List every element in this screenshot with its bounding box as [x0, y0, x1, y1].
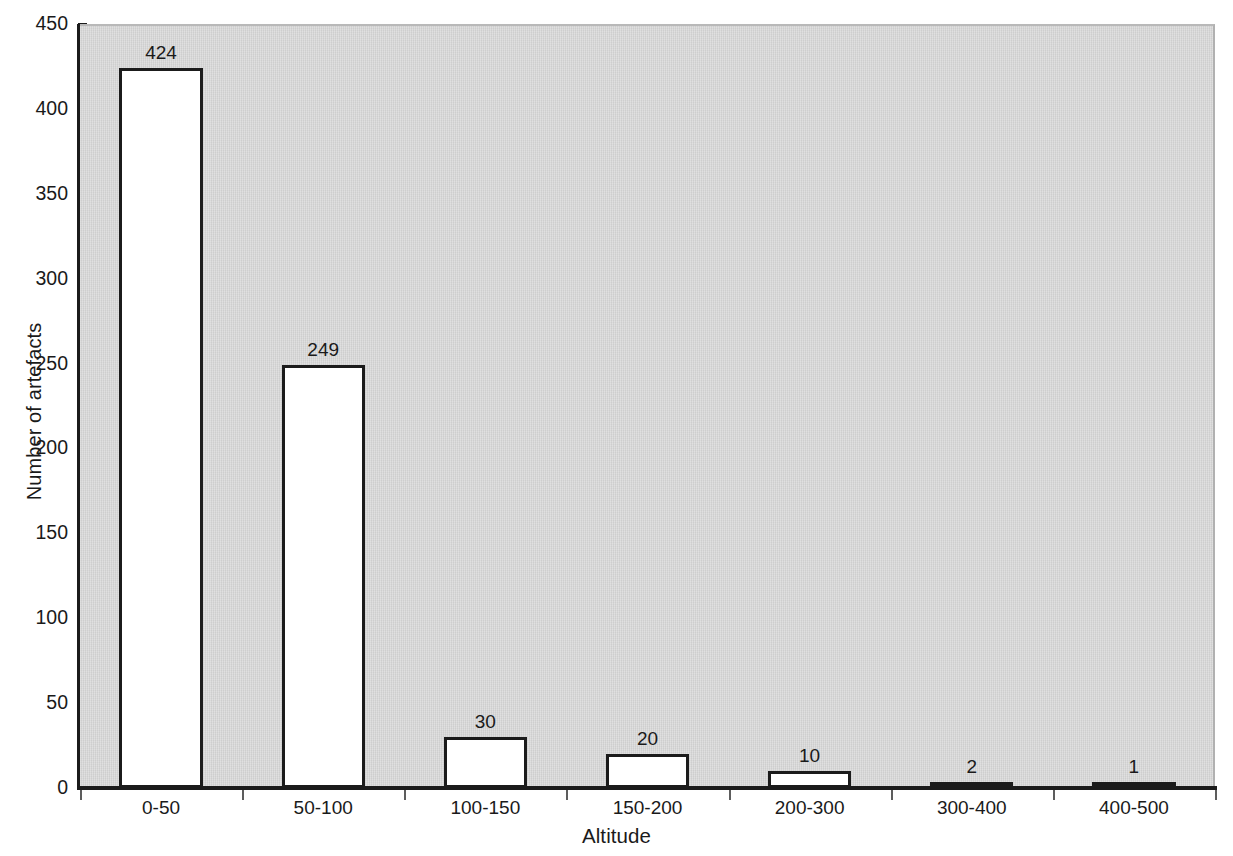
x-axis-line: [77, 786, 1217, 790]
x-axis-category-label: 200-300: [775, 797, 845, 819]
x-axis-tick: [404, 790, 406, 800]
x-axis-category-label: 150-200: [613, 797, 683, 819]
y-axis-tick-label: 100: [14, 608, 68, 628]
bar-slot: 2: [930, 26, 1013, 788]
bar-slot: 1: [1092, 26, 1175, 788]
y-axis-tick-label: 300: [14, 269, 68, 289]
x-axis-tick: [80, 790, 82, 800]
bar: [282, 365, 365, 788]
x-axis-category-label: 0-50: [142, 797, 180, 819]
y-axis-tick-label: 250: [14, 354, 68, 374]
bar-slot: 10: [768, 26, 851, 788]
bar: [119, 68, 202, 788]
y-axis-tick-label: 200: [14, 438, 68, 458]
x-axis-category-label: 50-100: [294, 797, 353, 819]
x-axis-tick: [566, 790, 568, 800]
bar-value-label: 10: [799, 746, 820, 765]
bar-value-label: 20: [637, 729, 658, 748]
bar-slot: 20: [606, 26, 689, 788]
y-axis-title: Number of artefacts: [23, 262, 46, 562]
bar-chart-figure: Number of artefacts 05010015020025030035…: [0, 0, 1233, 856]
x-axis-tick: [1215, 790, 1217, 800]
bar-value-label: 424: [145, 43, 177, 62]
bar-slot: 30: [444, 26, 527, 788]
bar-value-label: 2: [966, 757, 977, 776]
y-axis-tick-label: 400: [14, 99, 68, 119]
x-axis-tick: [1053, 790, 1055, 800]
bar-value-label: 249: [307, 340, 339, 359]
plot-area: 42424930201021: [80, 24, 1215, 788]
bar-slot: 424: [119, 26, 202, 788]
x-axis-title: Altitude: [0, 824, 1233, 848]
y-axis-tick-label: 150: [14, 523, 68, 543]
x-axis-category-label: 100-150: [450, 797, 520, 819]
x-axis-category-label: 400-500: [1099, 797, 1169, 819]
y-axis-tick-label: 50: [14, 693, 68, 713]
x-axis-tick: [891, 790, 893, 800]
y-axis-tick-label: 350: [14, 184, 68, 204]
x-axis-category-label: 300-400: [937, 797, 1007, 819]
bars-layer: 42424930201021: [80, 26, 1213, 788]
bar: [444, 737, 527, 788]
bar-value-label: 30: [475, 712, 496, 731]
y-axis-tick-label: 0: [14, 778, 68, 798]
bar: [606, 754, 689, 788]
bar-value-label: 1: [1129, 757, 1140, 776]
x-axis-tick: [729, 790, 731, 800]
y-axis-tick-label: 450: [14, 14, 68, 34]
bar-slot: 249: [282, 26, 365, 788]
x-axis-tick: [242, 790, 244, 800]
